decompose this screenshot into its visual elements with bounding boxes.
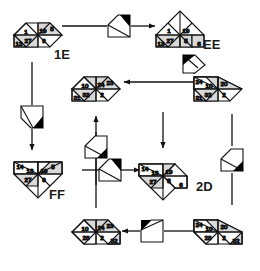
- label-1e: 1E: [54, 48, 70, 61]
- cell-value: 19: [183, 27, 190, 34]
- node-top-right[interactable]: 1 19 27 5 13 6: [156, 11, 204, 47]
- cell-value: 27: [150, 178, 157, 185]
- cell-value: 10: [206, 82, 213, 89]
- cell-value: 2: [222, 91, 226, 98]
- node-center-lower[interactable]: 14 13 19 27 5 6: [139, 164, 187, 200]
- label-ff: FF: [49, 188, 65, 201]
- cell-value: 32: [111, 237, 118, 244]
- cell-value: 1: [167, 27, 171, 34]
- cell-value: 27: [25, 176, 32, 183]
- cell-value: 5: [51, 163, 55, 170]
- label-2d: 2D: [196, 180, 213, 193]
- cell-value: 5: [50, 25, 54, 32]
- label-ee: EE: [203, 38, 220, 51]
- node-center-upper[interactable]: 23 10 24 32 2 31: [72, 77, 120, 101]
- marker-center-upper[interactable]: [85, 136, 107, 158]
- cell-value: 14: [17, 163, 24, 170]
- cell-value: 27: [25, 37, 32, 44]
- cell-value: 13: [152, 169, 159, 176]
- cell-value: 13: [16, 40, 23, 47]
- cell-value: 32: [83, 91, 90, 98]
- cell-value: 6: [179, 181, 183, 188]
- cell-value: 27: [167, 37, 174, 44]
- marker-right-lower[interactable]: [221, 149, 243, 171]
- cell-value: 9: [42, 176, 46, 183]
- cell-value: 10: [206, 225, 213, 232]
- diagram-canvas: 5 1 19 27 9 13 1 19: [0, 0, 260, 271]
- cell-value: 13: [158, 40, 165, 47]
- cell-value: 31: [74, 94, 81, 101]
- cell-value: 19: [41, 167, 48, 174]
- marker-left-vertical[interactable]: [21, 106, 43, 128]
- cell-value: 31: [196, 94, 203, 101]
- cell-value: 6: [197, 40, 201, 47]
- cell-value: 28: [83, 234, 90, 241]
- cell-value: 19: [166, 168, 173, 175]
- cell-value: 23: [107, 79, 114, 86]
- marker-center-lower[interactable]: [99, 159, 121, 181]
- cell-value: 24: [196, 221, 203, 228]
- cell-value: 20: [221, 223, 228, 230]
- cell-value: 5: [184, 37, 188, 44]
- cell-value: 20: [221, 80, 228, 87]
- cell-value: 1: [24, 28, 28, 35]
- marker-bottom[interactable]: [141, 220, 163, 242]
- cell-value: 2: [222, 234, 226, 241]
- node-bottom-middle[interactable]: 23 10 24 28 2 32: [72, 220, 120, 244]
- cell-value: 10: [82, 225, 89, 232]
- node-right-upper[interactable]: 24 10 20 32 2 31: [194, 77, 242, 101]
- nodes-layer: 5 1 19 27 9 13 1 19: [0, 0, 260, 271]
- cell-value: 32: [205, 91, 212, 98]
- cell-value: 24: [98, 81, 105, 88]
- cell-value: 24: [98, 224, 105, 231]
- cell-value: 19: [40, 27, 47, 34]
- cell-value: 9: [42, 37, 46, 44]
- cell-value: 13: [27, 167, 34, 174]
- cell-value: 5: [167, 177, 171, 184]
- node-top-left[interactable]: 5 1 19 27 9 13: [14, 23, 62, 47]
- cell-value: 23: [107, 222, 114, 229]
- cell-value: 28: [205, 234, 212, 241]
- cell-value: 2: [100, 234, 104, 241]
- cell-value: 24: [196, 78, 203, 85]
- cell-value: 10: [82, 82, 89, 89]
- marker-top[interactable]: [108, 15, 130, 37]
- marker-ee-down[interactable]: [183, 55, 205, 73]
- node-bottom-right[interactable]: 24 10 20 28 2 32: [194, 220, 242, 244]
- cell-value: 14: [142, 165, 149, 172]
- cell-value: 32: [233, 237, 240, 244]
- cell-value: 2: [100, 91, 104, 98]
